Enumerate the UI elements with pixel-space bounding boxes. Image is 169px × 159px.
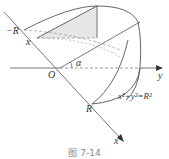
diagram-canvas <box>0 0 169 159</box>
alpha-label: α <box>76 58 81 68</box>
x-axis-label: x <box>114 136 118 146</box>
cylinder-edge <box>126 22 141 100</box>
circle-equation: x²+y²=R² <box>118 92 152 101</box>
alpha-arc <box>70 62 72 68</box>
origin-label: O <box>48 70 55 80</box>
x-upper-label: x <box>26 37 30 47</box>
neg-r-label: −R <box>6 26 19 36</box>
r-label: R <box>86 104 92 114</box>
hidden-arc-2 <box>37 38 122 58</box>
figure-caption: 图 7-14 <box>0 146 169 159</box>
y-axis-label: y <box>158 71 162 81</box>
